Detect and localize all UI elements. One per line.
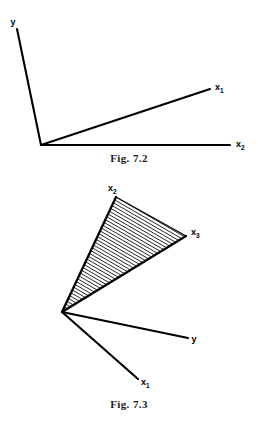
hatch-stroke (0, 199, 258, 394)
hatch-stroke (0, 172, 258, 394)
hatch-stroke (0, 172, 258, 394)
label-x1: x1 (215, 82, 224, 94)
hatch-stroke (0, 172, 258, 374)
hatch-stroke (0, 172, 258, 355)
figure-7-3-canvas: x2 x3 y x1 (0, 172, 258, 394)
hatch-stroke (0, 172, 258, 394)
hatch-stroke (0, 172, 258, 291)
hatch-stroke (0, 317, 258, 394)
hatch-stroke (0, 312, 258, 394)
hatch-stroke (0, 172, 258, 221)
label-x3: x3 (191, 227, 200, 239)
label-x2-subscript: 2 (113, 188, 117, 195)
hatch-stroke (0, 231, 258, 394)
hatch-stroke (0, 172, 258, 394)
label-x2-subscript: 2 (241, 144, 245, 150)
hatch-stroke (0, 172, 258, 379)
hatch-stroke (0, 172, 258, 361)
hatch-stroke (0, 172, 258, 251)
hatch-stroke (0, 172, 258, 394)
figure-7-2-canvas: y x1 x2 (0, 0, 258, 150)
hatch-stroke (0, 322, 258, 394)
hatch-stroke (0, 172, 258, 394)
hatch-stroke (0, 172, 258, 328)
hatch-stroke (0, 172, 258, 275)
hatch-stroke (0, 172, 258, 253)
label-x3-subscript: 3 (196, 232, 200, 239)
hatch-stroke (0, 274, 258, 394)
hatch-stroke (0, 172, 258, 394)
label-x2: x2 (236, 139, 245, 150)
hatch-stroke (0, 172, 258, 293)
hatch-stroke (0, 172, 258, 394)
hatch-stroke (0, 172, 258, 394)
hatch-stroke (0, 172, 258, 197)
hatch-stroke (0, 306, 258, 394)
hatch-stroke (0, 172, 258, 394)
hatch-stroke (0, 172, 258, 394)
hatch-stroke (0, 304, 258, 394)
hatch-stroke (0, 172, 258, 205)
hatch-stroke (0, 180, 258, 394)
hatch-stroke (0, 172, 258, 394)
hatch-stroke (0, 172, 258, 394)
hatch-stroke (0, 172, 258, 394)
hatch-stroke (0, 172, 258, 394)
label-y: y (10, 17, 15, 27)
hatch-stroke (0, 172, 258, 213)
figure-7-2-caption: Fig. 7.2 (0, 152, 258, 164)
hatch-stroke (0, 172, 258, 394)
hatch-stroke (0, 172, 258, 216)
hatch-stroke (0, 172, 258, 264)
hatch-stroke (0, 172, 258, 229)
hatch-stroke (0, 191, 258, 394)
hatch-stroke (0, 172, 258, 394)
label-x2: x2 (108, 183, 117, 195)
hatch-stroke (0, 172, 258, 358)
hatch-stroke (0, 172, 258, 320)
hatch-stroke (0, 172, 258, 394)
hatch-stroke (0, 172, 258, 394)
hatch-stroke (0, 186, 258, 394)
hatch-stroke (0, 172, 258, 256)
hatch-stroke (0, 301, 258, 394)
ray-y (62, 312, 188, 338)
cone-hatching (0, 172, 258, 394)
hatch-stroke (0, 172, 258, 394)
hatch-stroke (0, 183, 258, 394)
hatch-stroke (0, 172, 258, 200)
hatch-stroke (0, 172, 258, 285)
hatch-stroke (0, 207, 258, 394)
hatch-stroke (0, 172, 258, 307)
hatch-stroke (0, 320, 258, 394)
hatch-stroke (0, 293, 258, 394)
figure-7-3: x2 x3 y x1 Fig. 7.3 (0, 172, 258, 426)
label-x1: x1 (141, 377, 150, 389)
hatch-stroke (0, 215, 258, 394)
hatch-stroke (0, 172, 258, 394)
hatch-stroke (0, 172, 258, 394)
label-x1-subscript: 1 (220, 87, 224, 94)
hatch-stroke (0, 172, 258, 382)
hatch-stroke (0, 325, 258, 394)
hatch-stroke (0, 269, 258, 394)
label-x1-subscript: 1 (146, 382, 150, 389)
hatch-stroke (0, 172, 258, 394)
hatch-stroke (0, 172, 258, 394)
hatch-stroke (0, 172, 258, 394)
figure-page: y x1 x2 Fig. 7.2 (0, 0, 258, 426)
hatch-stroke (0, 172, 258, 377)
figure-7-3-caption: Fig. 7.3 (0, 398, 258, 410)
hatch-stroke (0, 172, 258, 363)
hatch-stroke (0, 172, 258, 394)
hatch-stroke (0, 172, 258, 339)
hatch-stroke (0, 172, 258, 394)
hatch-stroke (0, 223, 258, 394)
hatch-stroke (0, 202, 258, 394)
hatch-stroke (0, 172, 258, 272)
hatch-stroke (0, 266, 258, 394)
hatch-stroke (0, 229, 258, 394)
hatch-stroke (0, 172, 258, 394)
hatch-stroke (0, 277, 258, 394)
hatch-stroke (0, 172, 258, 394)
